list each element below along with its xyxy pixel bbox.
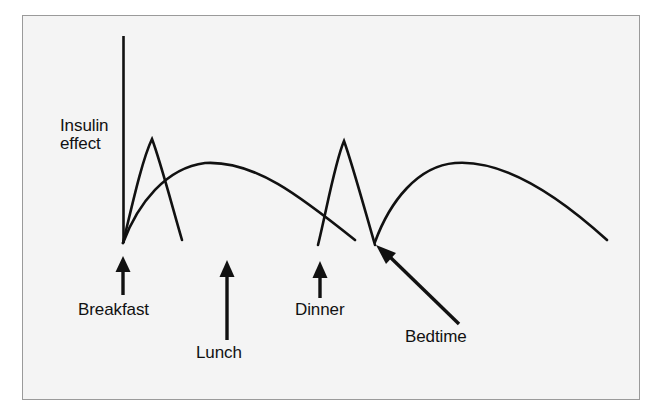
dinner-arrow-icon	[313, 261, 328, 298]
breakfast-arrow-icon	[116, 256, 131, 295]
marker-label-bedtime: Bedtime	[405, 328, 467, 346]
curve-dinner-rapid	[318, 141, 375, 245]
marker-label-breakfast: Breakfast	[78, 301, 149, 319]
insulin-curve-plot	[0, 0, 662, 419]
marker-label-dinner: Dinner	[295, 301, 344, 319]
y-axis-label-line1: Insulin	[60, 116, 108, 135]
curve-bedtime-long	[375, 163, 607, 242]
y-axis-label-line2: effect	[60, 134, 101, 153]
lunch-arrow-icon	[220, 260, 235, 340]
bedtime-arrow-icon	[376, 245, 459, 324]
y-axis-label: Insulineffect	[60, 117, 108, 153]
insulin-effect-figure: Insulineffect Breakfast Lunch Dinner Bed…	[0, 0, 662, 419]
marker-label-lunch: Lunch	[196, 344, 242, 362]
